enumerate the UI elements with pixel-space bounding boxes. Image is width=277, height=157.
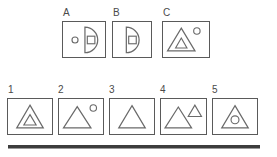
panel-label-c: C bbox=[163, 8, 170, 18]
bottom-divider-shadow bbox=[8, 148, 260, 149]
figure-b bbox=[113, 22, 151, 57]
small-circle-icon bbox=[72, 37, 78, 43]
small-triangle-inside-icon bbox=[176, 38, 187, 48]
answer-option-5[interactable] bbox=[212, 98, 258, 135]
prompt-panel-b[interactable] bbox=[112, 21, 152, 58]
answer-option-1[interactable] bbox=[7, 98, 53, 135]
figure-option-1 bbox=[8, 99, 52, 134]
small-circle-inside-icon bbox=[231, 116, 239, 124]
figure-option-5 bbox=[213, 99, 257, 134]
panel-label-a: A bbox=[63, 8, 70, 18]
prompt-panel-a[interactable] bbox=[62, 21, 106, 58]
figure-a bbox=[63, 22, 105, 57]
figure-option-2 bbox=[59, 99, 103, 134]
small-triangle-outside-icon bbox=[188, 105, 201, 116]
panel-label-b: B bbox=[113, 8, 120, 18]
small-triangle-inside-icon bbox=[24, 115, 36, 125]
option-label-4: 4 bbox=[160, 85, 166, 95]
figure-option-3 bbox=[110, 99, 154, 134]
option-label-5: 5 bbox=[212, 85, 218, 95]
figure-option-4 bbox=[161, 99, 206, 134]
answer-option-4[interactable] bbox=[160, 98, 207, 135]
figure-c bbox=[163, 22, 209, 57]
small-square-icon bbox=[87, 36, 95, 44]
option-label-1: 1 bbox=[8, 85, 14, 95]
large-triangle-icon bbox=[222, 106, 248, 128]
large-triangle-icon bbox=[165, 107, 191, 128]
small-circle-icon bbox=[194, 28, 200, 34]
large-triangle-icon bbox=[64, 107, 91, 128]
prompt-panel-c[interactable] bbox=[162, 21, 210, 58]
large-triangle-icon bbox=[119, 106, 145, 128]
small-square-icon bbox=[129, 36, 137, 44]
option-label-3: 3 bbox=[109, 85, 115, 95]
option-label-2: 2 bbox=[58, 85, 64, 95]
puzzle-canvas: A B C 1 2 3 4 5 bbox=[0, 0, 277, 157]
small-circle-icon bbox=[90, 105, 96, 111]
answer-option-3[interactable] bbox=[109, 98, 155, 135]
answer-option-2[interactable] bbox=[58, 98, 104, 135]
